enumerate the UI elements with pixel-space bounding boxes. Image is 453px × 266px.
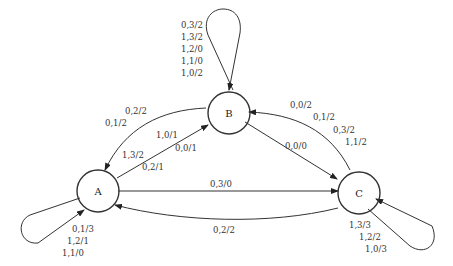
edge-label: 0,3/0	[210, 180, 232, 189]
edge-label: 0,3/2	[181, 21, 203, 30]
state-label-b: B	[225, 108, 232, 119]
edge-b-b	[206, 9, 240, 90]
edge-label: 0,1/2	[313, 113, 335, 122]
edge-c-c	[368, 199, 434, 250]
edge-label: 0,0/2	[290, 101, 312, 110]
edge-label: 0,1/2	[105, 119, 127, 128]
edge-label: 1,1/2	[345, 138, 367, 147]
state-label-a: A	[94, 186, 101, 197]
edge-label: 1,3/2	[181, 33, 203, 42]
state-label-c: C	[355, 188, 363, 199]
edge-label: 1,3/3	[349, 221, 371, 230]
edge-label: 0,3/2	[333, 126, 355, 135]
edge-label: 0,0/0	[285, 142, 307, 151]
edge-label: 0,1/3	[72, 225, 94, 234]
edge-label: 1,3/2	[122, 151, 144, 160]
edge-label: 1,0/1	[156, 131, 178, 140]
edge-label: 1,2/0	[181, 45, 203, 54]
edge-label: 1,2/2	[359, 233, 381, 242]
edge-label: 0,2/1	[142, 163, 164, 172]
edge-c-a	[115, 205, 338, 219]
edge-label: 1,0/3	[365, 245, 387, 254]
edge-label: 0,2/2	[125, 107, 147, 116]
edge-label: 1,0/2	[181, 69, 203, 78]
edge-label: 1,1/0	[62, 249, 84, 258]
edge-label: 1,2/1	[67, 237, 89, 246]
edge-label: 1,1/0	[181, 57, 203, 66]
edge-label: 0,2/2	[213, 226, 235, 235]
edge-label: 0,0/1	[175, 144, 197, 153]
